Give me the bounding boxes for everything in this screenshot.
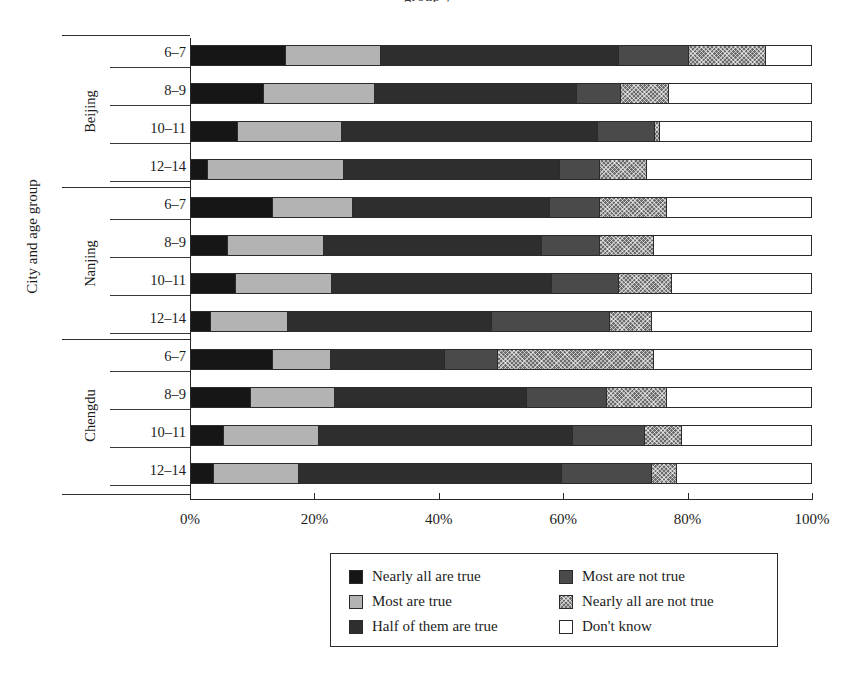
chart-figure: group y City and age group BeijingNanjin… [0, 0, 856, 679]
bar-beijing-6-7 [190, 45, 812, 66]
age-separator-line [110, 295, 190, 296]
plot-area: 0%20%40%60%80%100% [190, 38, 812, 500]
x-tick-label-60: 60% [549, 511, 577, 528]
segment-most-are-true [251, 388, 336, 407]
segment-half-of-them-are-true [375, 84, 577, 103]
bar-beijing-10-11 [190, 121, 812, 142]
bar-nanjing-8-9 [190, 235, 812, 256]
segment-most-are-true [208, 160, 344, 179]
legend-item-nearly-all-true[interactable]: Nearly all are true [349, 564, 564, 589]
bar-nanjing-12-14 [190, 311, 812, 332]
age-label-nanjing-12-14: 12–14 [106, 310, 186, 327]
segment-half-of-them-are-true [299, 464, 562, 483]
age-label-nanjing-6-7: 6–7 [106, 196, 186, 213]
x-tick-label-40: 40% [425, 511, 453, 528]
segment-don-t-know [682, 426, 811, 445]
legend-item-half-true[interactable]: Half of them are true [349, 614, 564, 639]
city-group-separator-bottom [62, 494, 190, 495]
segment-nearly-all-are-not-true [600, 236, 655, 255]
segment-nearly-all-are-true [191, 160, 208, 179]
segment-don-t-know [660, 122, 811, 141]
age-separator-line [110, 409, 190, 410]
age-separator-line [110, 143, 190, 144]
segment-nearly-all-are-not-true [498, 350, 654, 369]
legend-item-most-not-true[interactable]: Most are not true [559, 564, 774, 589]
legend-swatch-nearly-all-not-true-icon [559, 595, 573, 609]
legend-swatch-half-true-icon [349, 620, 363, 634]
segment-most-are-true [273, 198, 354, 217]
x-axis-line [190, 499, 812, 500]
segment-nearly-all-are-not-true [607, 388, 667, 407]
legend-label-nearly-all-not-true: Nearly all are not true [582, 593, 714, 610]
segment-most-are-true [286, 46, 381, 65]
age-separator-line [110, 447, 190, 448]
segment-most-are-not-true [552, 274, 619, 293]
segment-most-are-not-true [562, 464, 653, 483]
segment-don-t-know [667, 198, 811, 217]
segment-nearly-all-are-not-true [619, 274, 671, 293]
segment-half-of-them-are-true [288, 312, 493, 331]
segment-nearly-all-are-not-true [600, 160, 647, 179]
segment-nearly-all-are-true [191, 426, 224, 445]
segment-nearly-all-are-true [191, 236, 228, 255]
legend-swatch-most-not-true-icon [559, 570, 573, 584]
segment-most-are-not-true [542, 236, 600, 255]
segment-most-are-not-true [445, 350, 498, 369]
age-label-chengdu-6-7: 6–7 [106, 348, 186, 365]
bar-beijing-8-9 [190, 83, 812, 104]
legend-swatch-most-true-icon [349, 595, 363, 609]
segment-half-of-them-are-true [324, 236, 542, 255]
segment-nearly-all-are-true [191, 122, 238, 141]
segment-half-of-them-are-true [319, 426, 573, 445]
age-separator-line [110, 181, 190, 182]
segment-nearly-all-are-not-true [645, 426, 682, 445]
segment-most-are-true [273, 350, 330, 369]
age-label-chengdu-10-11: 10–11 [106, 424, 186, 441]
legend-label-most-not-true: Most are not true [582, 568, 685, 585]
segment-nearly-all-are-true [191, 388, 251, 407]
legend-label-most-true: Most are true [372, 593, 452, 610]
age-separator-line [110, 105, 190, 106]
segment-half-of-them-are-true [331, 350, 446, 369]
cropped-caption-text: group y [0, 0, 856, 2]
x-tick-60 [563, 493, 564, 500]
x-tick-80 [688, 493, 689, 500]
bar-nanjing-6-7 [190, 197, 812, 218]
segment-nearly-all-are-true [191, 350, 273, 369]
segment-don-t-know [647, 160, 811, 179]
segment-don-t-know [669, 84, 811, 103]
segment-most-are-true [211, 312, 288, 331]
legend-label-nearly-all-true: Nearly all are true [372, 568, 481, 585]
x-tick-label-0: 0% [180, 511, 200, 528]
bar-beijing-12-14 [190, 159, 812, 180]
segment-most-are-true [214, 464, 299, 483]
legend-item-nearly-all-not-true[interactable]: Nearly all are not true [559, 589, 774, 614]
segment-most-are-not-true [550, 198, 600, 217]
segment-half-of-them-are-true [381, 46, 619, 65]
segment-most-are-not-true [560, 160, 600, 179]
segment-most-are-true [236, 274, 333, 293]
segment-most-are-not-true [527, 388, 607, 407]
segment-most-are-true [238, 122, 343, 141]
legend-swatch-dont-know-icon [559, 620, 573, 634]
legend-item-most-true[interactable]: Most are true [349, 589, 564, 614]
age-label-chengdu-12-14: 12–14 [106, 462, 186, 479]
segment-most-are-not-true [492, 312, 610, 331]
segment-half-of-them-are-true [335, 388, 527, 407]
segment-don-t-know [654, 350, 811, 369]
segment-most-are-not-true [598, 122, 654, 141]
segment-nearly-all-are-true [191, 312, 211, 331]
segment-most-are-not-true [573, 426, 645, 445]
segment-nearly-all-are-not-true [600, 198, 668, 217]
segment-nearly-all-are-true [191, 46, 286, 65]
legend-item-dont-know[interactable]: Don't know [559, 614, 774, 639]
segment-nearly-all-are-true [191, 464, 214, 483]
x-tick-20 [314, 493, 315, 500]
age-separator-line [110, 485, 190, 486]
bar-chengdu-10-11 [190, 425, 812, 446]
x-tick-0 [190, 493, 191, 500]
segment-don-t-know [672, 274, 812, 293]
legend-column-right: Most are not trueNearly all are not true… [559, 564, 774, 639]
segment-most-are-true [264, 84, 376, 103]
segment-most-are-not-true [619, 46, 689, 65]
